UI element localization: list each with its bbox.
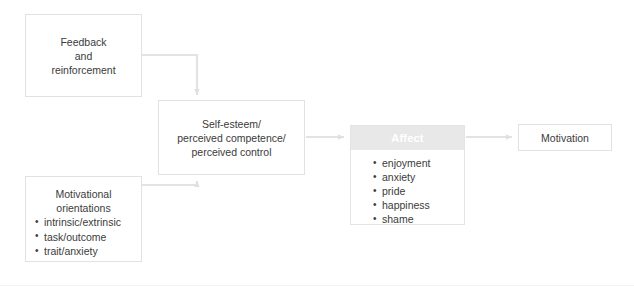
bottom-divider (0, 285, 634, 286)
node-feedback-line-2: and (75, 50, 93, 62)
node-motivation-label: Motivation (541, 131, 589, 145)
list-item: anxiety (373, 170, 464, 184)
node-motivation: Motivation (518, 124, 612, 151)
connector-feedback-to-self-esteem (142, 55, 197, 95)
node-feedback-and-reinforcement: Feedback and reinforcement (25, 14, 142, 97)
connector-motivational-orientations-to-self-esteem (142, 181, 197, 185)
node-self-esteem-line-3: perceived control (192, 146, 272, 158)
diagram-canvas: Feedback and reinforcement Self-esteem/ … (0, 0, 634, 294)
node-affect-header: Affect (351, 126, 464, 150)
node-feedback-label: Feedback and reinforcement (45, 35, 121, 77)
affect-list: enjoyment anxiety pride happiness shame (351, 150, 464, 226)
node-self-esteem-label: Self-esteem/ perceived competence/ perce… (172, 117, 291, 159)
motivational-orientations-list: intrinsic/extrinsic task/outcome trait/a… (26, 215, 141, 259)
list-item: trait/anxiety (35, 244, 141, 259)
node-feedback-line-1: Feedback (60, 36, 106, 48)
node-motivational-orientations-heading: Motivational orientations (26, 187, 141, 215)
list-item: shame (373, 212, 464, 226)
node-motivational-orientations-heading-line-2: orientations (56, 202, 110, 214)
list-item: intrinsic/extrinsic (35, 215, 141, 230)
node-affect: Affect enjoyment anxiety pride happiness… (350, 125, 465, 225)
list-item: happiness (373, 198, 464, 212)
node-motivational-orientations-heading-line-1: Motivational (55, 188, 111, 200)
list-item: task/outcome (35, 230, 141, 245)
node-self-esteem: Self-esteem/ perceived competence/ perce… (158, 100, 305, 175)
list-item: pride (373, 184, 464, 198)
node-feedback-line-3: reinforcement (51, 64, 115, 76)
node-self-esteem-line-2: perceived competence/ (177, 132, 286, 144)
node-motivational-orientations: Motivational orientations intrinsic/extr… (25, 176, 142, 262)
node-self-esteem-line-1: Self-esteem/ (202, 118, 261, 130)
list-item: enjoyment (373, 156, 464, 170)
